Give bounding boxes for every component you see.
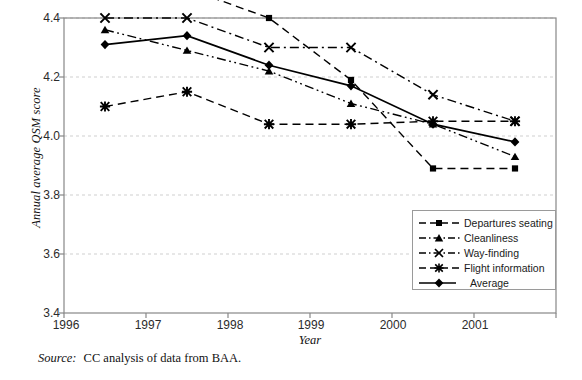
- source-note: Source: CC analysis of data from BAA.: [38, 351, 241, 366]
- legend-swatch-triangle-icon: [418, 231, 462, 245]
- legend-swatch-square-icon: [418, 216, 462, 230]
- legend-label: Departures seating: [462, 217, 553, 229]
- legend-label: Average: [462, 277, 509, 289]
- legend: Departures seating Cleanliness Way-findi…: [412, 210, 556, 290]
- legend-item-average[interactable]: Average: [418, 275, 551, 290]
- legend-item-way-finding[interactable]: Way-finding: [418, 245, 551, 260]
- legend-label: Way-finding: [462, 247, 519, 259]
- legend-swatch-asterisk-icon: [418, 261, 462, 275]
- legend-swatch-diamond-icon: [418, 276, 462, 290]
- source-label: Source:: [38, 351, 76, 365]
- legend-label: Cleanliness: [462, 232, 518, 244]
- source-text: CC analysis of data from BAA.: [80, 351, 242, 365]
- legend-item-departures-seating[interactable]: Departures seating: [418, 215, 551, 230]
- legend-label: Flight information: [462, 262, 545, 274]
- line-chart: Annual average QSM score Year 3.4 3.6 3.…: [0, 0, 582, 380]
- plot-area: [0, 0, 582, 380]
- legend-item-cleanliness[interactable]: Cleanliness: [418, 230, 551, 245]
- legend-item-flight-information[interactable]: Flight information: [418, 260, 551, 275]
- legend-swatch-cross-icon: [418, 246, 462, 260]
